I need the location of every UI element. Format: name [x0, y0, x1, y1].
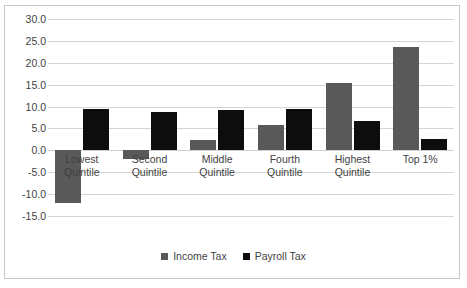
gridline [48, 216, 454, 217]
gridline [48, 194, 454, 195]
x-axis-category-label-line: Quintile [319, 166, 387, 179]
legend-label: Payroll Tax [255, 250, 306, 262]
x-axis-category-label: LowestQuintile [48, 153, 116, 178]
x-axis-category-label: MiddleQuintile [183, 153, 251, 178]
bar-payroll-tax [286, 109, 312, 150]
bar-income-tax [258, 125, 284, 151]
legend-swatch-icon [161, 253, 168, 260]
y-axis: 30.025.020.015.010.05.00.0-5.0-10.0-15.0 [0, 19, 46, 216]
bar-income-tax [393, 47, 419, 151]
gridline [48, 41, 454, 42]
x-axis-category-label-line: Middle [183, 153, 251, 166]
x-axis-category-label-line: Lowest [48, 153, 116, 166]
y-axis-tick-label: -15.0 [2, 211, 46, 221]
y-axis-tick-label: -5.0 [2, 167, 46, 177]
x-axis-category-label-line: Second [116, 153, 184, 166]
legend-swatch-icon [243, 253, 250, 260]
legend-label: Income Tax [173, 250, 227, 262]
bar-payroll-tax [83, 109, 109, 151]
gridline [48, 150, 454, 151]
y-axis-tick-label: 30.0 [2, 14, 46, 24]
x-axis-category-label-line: Highest [319, 153, 387, 166]
y-axis-tick-label: -10.0 [2, 189, 46, 199]
y-axis-tick-label: 5.0 [2, 123, 46, 133]
chart-legend: Income TaxPayroll Tax [0, 250, 467, 262]
x-axis-category-label: SecondQuintile [116, 153, 184, 178]
x-axis-category-label: HighestQuintile [319, 153, 387, 178]
legend-item-income-tax[interactable]: Income Tax [161, 250, 227, 262]
x-axis-category-label-line: Quintile [183, 166, 251, 179]
bar-payroll-tax [421, 139, 447, 150]
bar-payroll-tax [354, 121, 380, 150]
bar-income-tax [326, 83, 352, 150]
x-axis-category-label-line: Quintile [48, 166, 116, 179]
bar-payroll-tax [218, 110, 244, 150]
x-axis-category-label: FourthQuintile [251, 153, 319, 178]
plot-area: LowestQuintileSecondQuintileMiddleQuinti… [48, 19, 454, 216]
gridline [48, 19, 454, 20]
bar-income-tax [190, 140, 216, 150]
y-axis-tick-label: 0.0 [2, 145, 46, 155]
y-axis-tick-label: 10.0 [2, 102, 46, 112]
x-axis-category-label: Top 1% [386, 153, 454, 166]
x-axis-category-label-line: Top 1% [386, 153, 454, 166]
y-axis-tick-label: 20.0 [2, 58, 46, 68]
x-axis-category-label-line: Fourth [251, 153, 319, 166]
y-axis-tick-label: 15.0 [2, 80, 46, 90]
y-axis-tick-label: 25.0 [2, 36, 46, 46]
bar-payroll-tax [151, 112, 177, 150]
bar-chart-figure: 30.025.020.015.010.05.00.0-5.0-10.0-15.0… [0, 0, 467, 288]
legend-item-payroll-tax[interactable]: Payroll Tax [243, 250, 306, 262]
x-axis-category-label-line: Quintile [116, 166, 184, 179]
x-axis-category-label-line: Quintile [251, 166, 319, 179]
